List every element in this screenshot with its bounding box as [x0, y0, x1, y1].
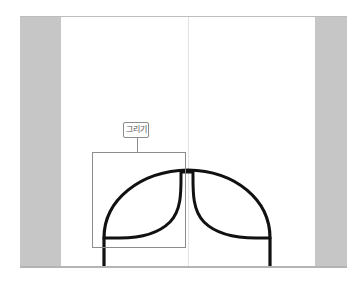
draw-tool-label[interactable]: 그리기 — [123, 122, 149, 138]
label-connector-line — [137, 138, 138, 152]
app-window: 그리기 — [0, 0, 363, 284]
selection-bounding-box[interactable] — [92, 152, 186, 248]
